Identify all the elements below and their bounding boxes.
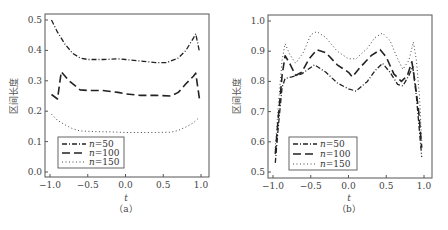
y-tick-label: 0.8	[251, 76, 266, 86]
series-line-n150	[52, 114, 199, 132]
series-line-n100	[52, 72, 200, 99]
legend-label-n100: n=100	[320, 149, 351, 159]
x-tick-label: −0.5	[300, 181, 322, 191]
x-tick-label: 0.5	[156, 180, 171, 190]
panel-label: （a）	[114, 204, 137, 214]
x-tick-label: 1.0	[194, 180, 209, 190]
y-tick-label: 0.9	[251, 46, 266, 56]
chart-panel-b: −1.0−0.50.00.51.00.50.60.70.80.91.0 n=50…	[231, 15, 432, 214]
legend: n=50 n=100 n=150	[289, 137, 357, 170]
legend-label-n150: n=150	[320, 159, 351, 169]
chart-panel-a: −1.0−0.50.00.51.00.00.10.20.30.40.5 n=50…	[8, 14, 209, 214]
legend: n=50 n=100 n=150	[58, 137, 124, 168]
x-tick-label: −1.0	[39, 180, 61, 190]
x-tick-label: 0.0	[341, 181, 356, 191]
x-tick-label: −1.0	[262, 181, 284, 191]
figure-caption	[0, 222, 448, 230]
y-tick-label: 0.6	[251, 137, 266, 147]
legend-label-n50: n=50	[320, 139, 345, 149]
y-tick-label: 0.5	[28, 15, 43, 25]
y-tick-label: 0.5	[251, 167, 266, 177]
y-axis-label: 区间长度	[231, 78, 242, 114]
x-tick-label: 1.0	[417, 181, 432, 191]
legend-label-n150: n=150	[89, 157, 120, 167]
y-tick-label: 1.0	[251, 16, 266, 26]
y-axis-label: 区间长度	[8, 78, 19, 114]
x-tick-label: −0.5	[77, 180, 99, 190]
figure: −1.0−0.50.00.51.00.00.10.20.30.40.5 n=50…	[0, 0, 448, 230]
y-tick-label: 0.7	[251, 107, 266, 117]
x-tick-label: 0.0	[118, 180, 133, 190]
y-tick-label: 0.4	[28, 45, 43, 55]
series-line-n50	[52, 20, 200, 63]
x-axis-label: t	[347, 193, 351, 203]
x-axis-label: t	[124, 193, 128, 203]
y-tick-label: 0.2	[28, 106, 42, 116]
series-line-n150	[275, 32, 421, 148]
panel-label: （b）	[337, 204, 361, 214]
x-tick-label: 0.5	[379, 181, 394, 191]
y-tick-label: 0.1	[28, 137, 42, 147]
y-tick-label: 0.0	[28, 167, 43, 177]
data-lines	[52, 20, 200, 133]
y-tick-label: 0.3	[28, 76, 43, 86]
